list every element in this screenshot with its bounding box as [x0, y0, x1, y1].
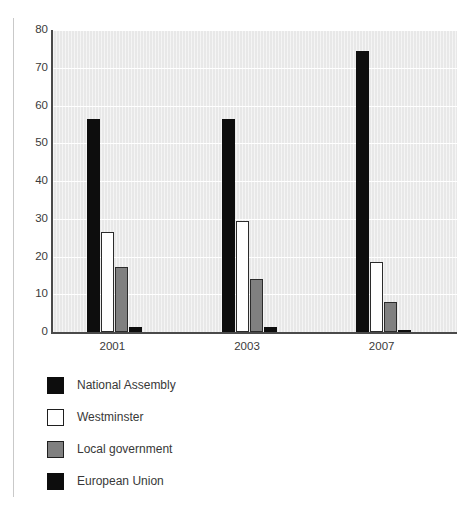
y-axis-tick-label: 20	[20, 251, 48, 263]
legend-swatch-icon	[47, 409, 64, 426]
y-axis-tick-label: 50	[20, 138, 48, 150]
y-axis-tick-label: 70	[20, 62, 48, 74]
bar-group-2007	[356, 30, 411, 332]
bar-westminster-2001	[101, 232, 114, 332]
bar-national-assembly-2007	[356, 51, 369, 332]
y-axis-tick-label: 40	[20, 175, 48, 187]
bar-westminster-2003	[236, 221, 249, 332]
bar-national-assembly-2003	[222, 119, 235, 332]
bar-group-2003	[222, 30, 277, 332]
bar-european-union-2003	[264, 327, 277, 332]
bar-european-union-2007	[398, 330, 411, 332]
legend-item: Local government	[47, 433, 347, 465]
y-axis: 01020304050607080	[14, 0, 48, 506]
chart-legend: National AssemblyWestminsterLocal govern…	[47, 369, 347, 497]
x-axis-tick-label: 2003	[212, 340, 282, 352]
x-axis-tick-label: 2007	[347, 340, 417, 352]
y-axis-tick-label: 0	[20, 326, 48, 338]
bar-local-government-2003	[250, 279, 263, 332]
y-axis-tick-label: 60	[20, 100, 48, 112]
legend-item: Westminster	[47, 401, 347, 433]
y-axis-tick-label: 30	[20, 213, 48, 225]
plot-area	[51, 30, 457, 334]
legend-swatch-icon	[47, 441, 64, 458]
bar-westminster-2007	[370, 262, 383, 332]
legend-item-label: European Union	[77, 474, 164, 488]
legend-swatch-icon	[47, 473, 64, 490]
legend-item-label: Westminster	[77, 410, 143, 424]
legend-swatch-icon	[47, 377, 64, 394]
legend-item: National Assembly	[47, 369, 347, 401]
legend-item-label: Local government	[77, 442, 172, 456]
x-axis-tick-label: 2001	[77, 340, 147, 352]
y-axis-tick-label: 10	[20, 289, 48, 301]
bar-local-government-2001	[115, 267, 128, 332]
bar-chart-figure: 01020304050607080 National AssemblyWestm…	[0, 0, 476, 506]
legend-item-label: National Assembly	[77, 378, 176, 392]
legend-item: European Union	[47, 465, 347, 497]
y-axis-tick-label: 80	[20, 24, 48, 36]
bar-european-union-2001	[129, 327, 142, 332]
bar-group-2001	[87, 30, 142, 332]
bar-local-government-2007	[384, 302, 397, 332]
bar-national-assembly-2001	[87, 119, 100, 332]
